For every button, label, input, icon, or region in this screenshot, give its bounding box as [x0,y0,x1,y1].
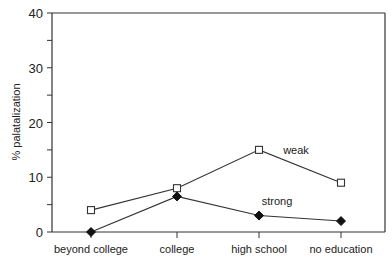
series-line-weak [91,150,341,210]
x-tick-label: high school [231,243,287,255]
y-axis: 010203040 [29,6,52,240]
data-point-strong [173,192,182,201]
x-axis: beyond collegecollegehigh schoolno educa… [52,232,385,255]
data-point-weak [338,179,345,186]
line-chart: 010203040 beyond collegecollegehigh scho… [0,0,392,264]
x-tick-label: no education [310,243,373,255]
y-tick-label: 10 [29,170,43,185]
y-tick-label: 0 [36,225,43,240]
data-point-weak [174,185,181,192]
x-tick-label: beyond college [54,243,128,255]
x-tick-label: college [160,243,195,255]
series-label-weak: weak [282,144,309,156]
data-point-strong [337,217,346,226]
series-line-strong [91,196,341,232]
plot-frame [52,13,385,232]
series-label-strong: strong [262,195,293,207]
y-axis-title: % palatalization [10,83,22,160]
data-point-strong [87,228,96,237]
series-layer [87,146,346,236]
y-tick-label: 40 [29,6,43,21]
y-tick-label: 20 [29,116,43,131]
data-point-weak [256,146,263,153]
y-tick-label: 30 [29,61,43,76]
data-point-weak [88,207,95,214]
data-point-strong [255,211,264,220]
